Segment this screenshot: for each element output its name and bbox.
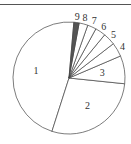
slice-label-8: 8 [83,12,88,23]
pie-chart: 123456789 [0,0,131,144]
slice-label-9: 9 [75,11,80,22]
slice-label-3: 3 [100,67,105,78]
slice-label-5: 5 [111,29,116,40]
slice-label-6: 6 [101,21,106,32]
slice-label-2: 2 [85,100,90,111]
slice-label-4: 4 [120,41,125,52]
slice-label-1: 1 [34,65,39,76]
slice-label-7: 7 [92,15,97,26]
